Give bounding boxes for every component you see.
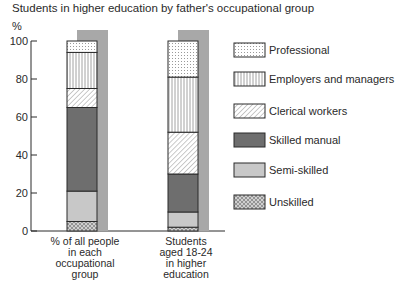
legend: ProfessionalEmployers and managersCleric… xyxy=(234,43,395,209)
legend-swatch xyxy=(234,133,265,147)
bar-segment-skilled-manual xyxy=(168,174,198,212)
y-tick-label: 60 xyxy=(16,111,28,123)
y-tick-label: 100 xyxy=(10,35,28,47)
legend-swatch xyxy=(234,43,265,57)
legend-swatch xyxy=(234,72,265,86)
bar-segment-employers-and-managers xyxy=(168,77,198,132)
bar-segment-professional xyxy=(67,41,97,52)
bar-segment-skilled-manual xyxy=(67,108,97,192)
bar-segment-semi-skilled xyxy=(67,191,97,221)
bar-segment-professional xyxy=(168,41,198,77)
bar-segment-unskilled xyxy=(168,227,198,231)
y-tick-label: 20 xyxy=(16,187,28,199)
legend-item: Employers and managers xyxy=(234,72,395,86)
category-label: education xyxy=(163,268,209,280)
legend-swatch xyxy=(234,163,265,177)
legend-label: Semi-skilled xyxy=(269,164,328,176)
category-labels: % of all peoplein eachoccupationalgroupS… xyxy=(51,235,213,280)
bar-segment-unskilled xyxy=(67,222,97,232)
legend-label: Skilled manual xyxy=(269,134,341,146)
legend-swatch xyxy=(234,104,265,118)
y-tick-label: 0 xyxy=(22,225,28,237)
legend-swatch xyxy=(234,195,265,209)
legend-item: Skilled manual xyxy=(234,133,341,147)
stacked-bar-chart: % 020406080100 % of all peoplein eachocc… xyxy=(0,0,397,288)
category-label: group xyxy=(72,268,99,280)
legend-item: Clerical workers xyxy=(234,104,348,118)
legend-item: Unskilled xyxy=(234,195,314,209)
bar-segment-clerical-workers xyxy=(67,89,97,108)
bars xyxy=(67,41,198,231)
legend-label: Unskilled xyxy=(269,196,314,208)
y-tick-label: 40 xyxy=(16,149,28,161)
legend-label: Professional xyxy=(269,44,330,56)
legend-label: Employers and managers xyxy=(269,73,395,85)
bar-segment-employers-and-managers xyxy=(67,52,97,88)
y-tick-label: 80 xyxy=(16,73,28,85)
legend-label: Clerical workers xyxy=(269,105,348,117)
bar-segment-clerical-workers xyxy=(168,132,198,174)
y-axis-label: % xyxy=(12,20,22,32)
bar-segment-semi-skilled xyxy=(168,212,198,227)
legend-item: Professional xyxy=(234,43,330,57)
legend-item: Semi-skilled xyxy=(234,163,328,177)
